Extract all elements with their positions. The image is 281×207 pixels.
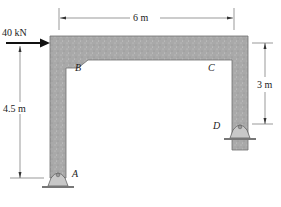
span-label: 6 m <box>133 12 149 23</box>
left-height-label: 4.5 m <box>3 103 26 114</box>
pin-support-a <box>42 173 74 188</box>
right-height-label: 3 m <box>257 79 273 90</box>
frame-diagram: 40 kN 6 m 4.5 m 3 m B C A D <box>0 0 281 207</box>
joint-label-b: B <box>75 62 81 73</box>
joint-label-c: C <box>208 62 215 73</box>
load-arrow <box>6 39 50 48</box>
joint-label-d: D <box>212 120 221 131</box>
pin-support-d <box>224 125 256 140</box>
joint-label-a: A <box>71 168 79 179</box>
load-label: 40 kN <box>2 27 27 38</box>
frame-member <box>50 36 248 178</box>
